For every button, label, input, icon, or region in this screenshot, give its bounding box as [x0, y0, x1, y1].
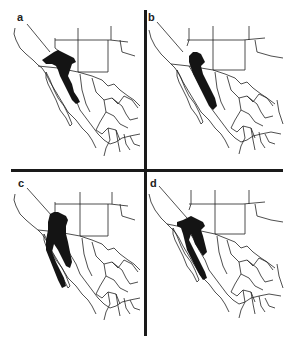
map-panel-d: d	[147, 172, 289, 337]
map-panel-b: b	[147, 0, 289, 168]
panel-label-c: c	[18, 178, 24, 189]
map-panel-c: c	[0, 172, 144, 337]
panel-label-a: a	[17, 12, 23, 23]
map-c	[0, 172, 144, 337]
map-panel-a: a	[0, 0, 144, 168]
panel-label-b: b	[148, 12, 155, 23]
map-b	[147, 0, 289, 168]
panel-label-d: d	[150, 178, 157, 189]
map-d	[147, 172, 289, 337]
map-a	[0, 0, 144, 168]
